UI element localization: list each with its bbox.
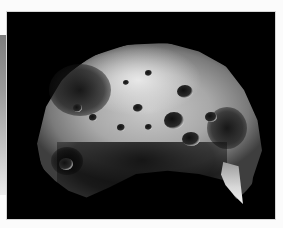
crater	[182, 132, 200, 146]
crater	[117, 124, 125, 131]
crater	[164, 112, 184, 129]
terminator-shadow	[57, 142, 227, 202]
page: Grayscale photograph of a heavily crater…	[0, 0, 283, 228]
crater	[73, 104, 82, 112]
crater	[89, 114, 97, 121]
crater	[59, 158, 73, 170]
crater	[177, 85, 193, 98]
moon-photograph: Grayscale photograph of a heavily crater…	[7, 12, 275, 219]
crater	[123, 80, 129, 85]
crater	[205, 112, 217, 122]
crater	[145, 70, 152, 76]
crater	[145, 124, 152, 130]
crater	[133, 104, 143, 112]
